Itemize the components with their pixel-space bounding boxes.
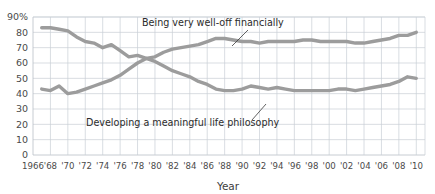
y-axis-tick-label: 80 <box>16 27 28 38</box>
y-axis-tick-label: 50 <box>16 73 28 84</box>
series-annotations: Being very well-off financiallyDevelopin… <box>86 17 284 128</box>
x-axis-tick-label: '92 <box>253 161 266 171</box>
x-axis-tick-label: '70 <box>61 161 74 171</box>
x-axis-tick-label: '90 <box>235 161 248 171</box>
x-axis-tick-label: 1966 <box>22 161 44 171</box>
y-axis-tick-label: 70 <box>16 42 28 53</box>
x-axis-tick-label: '02 <box>340 161 353 171</box>
y-axis-tick-label: 30 <box>16 103 28 114</box>
chart-container: 0102030405060708090% 1966'68'70'72'74'76… <box>0 0 435 194</box>
x-axis-tick-label: '04 <box>357 161 370 171</box>
series-annotation-label: Being very well-off financially <box>142 17 284 28</box>
x-axis-title: Year <box>216 180 240 192</box>
y-axis-tick-label: 60 <box>16 57 28 68</box>
series-annotation-label: Developing a meaningful life philosophy <box>86 117 280 128</box>
x-axis-tick-label: '06 <box>375 161 388 171</box>
x-axis-tick-label: '68 <box>44 161 57 171</box>
x-axis-tick-label: '94 <box>270 161 283 171</box>
x-axis-tick-label: '08 <box>392 161 405 171</box>
x-axis-tick-label: '76 <box>113 161 126 171</box>
data-series <box>42 28 417 94</box>
x-axis-tick-label: '82 <box>166 161 179 171</box>
x-axis-tick-label: '00 <box>323 161 336 171</box>
x-axis-tick-label: '10 <box>410 161 423 171</box>
series-line <box>42 28 417 91</box>
x-axis-tick-labels: 1966'68'70'72'74'76'78'80'82'84'86'88'90… <box>22 161 423 171</box>
x-axis-tick-label: '78 <box>131 161 144 171</box>
x-axis-tick-label: '74 <box>96 161 109 171</box>
y-axis-tick-label: 90% <box>7 11 28 22</box>
x-axis-tick-label: '80 <box>148 161 161 171</box>
y-axis-tick-label: 40 <box>16 88 28 99</box>
line-chart: 0102030405060708090% 1966'68'70'72'74'76… <box>0 0 435 194</box>
x-axis-tick-label: '98 <box>305 161 318 171</box>
y-axis-tick-labels: 0102030405060708090% <box>7 11 28 160</box>
x-axis-tick-label: '84 <box>183 161 196 171</box>
x-axis-tick-label: '88 <box>218 161 231 171</box>
y-axis-tick-label: 20 <box>16 119 28 130</box>
x-axis-tick-label: '86 <box>201 161 214 171</box>
y-axis-tick-label: 10 <box>16 134 28 145</box>
x-axis-tick-label: '96 <box>288 161 301 171</box>
x-axis-tick-label: '72 <box>79 161 92 171</box>
y-axis-tick-label: 0 <box>22 149 28 160</box>
